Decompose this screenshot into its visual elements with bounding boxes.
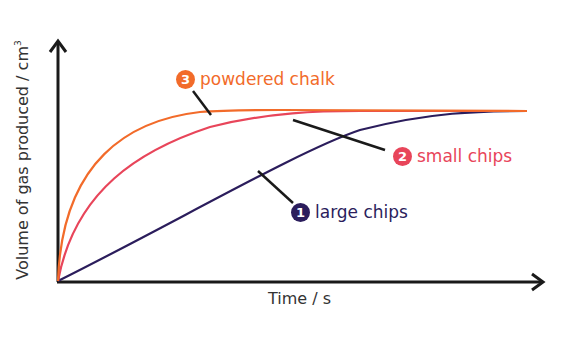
leader-line-1 bbox=[258, 171, 293, 203]
y-axis-label-superscript: 3 bbox=[13, 40, 23, 46]
legend-label-small-chips: small chips bbox=[417, 146, 512, 166]
number-badge-1: 1 bbox=[291, 203, 310, 222]
number-badge-2: 2 bbox=[393, 147, 412, 166]
x-axis-label: Time / s bbox=[268, 289, 331, 308]
legend-powdered-chalk: 3 powdered chalk bbox=[176, 69, 335, 89]
curve-small-chips bbox=[58, 111, 527, 281]
y-axis-label-text: Volume of gas produced / cm bbox=[13, 46, 32, 280]
legend-label-powdered-chalk: powdered chalk bbox=[200, 69, 335, 89]
curve-large-chips bbox=[58, 111, 527, 281]
y-axis-label: Volume of gas produced / cm3 bbox=[13, 40, 32, 279]
legend-large-chips: 1 large chips bbox=[291, 202, 408, 222]
legend-label-large-chips: large chips bbox=[315, 202, 408, 222]
legend-small-chips: 2 small chips bbox=[393, 146, 512, 166]
leader-line-2 bbox=[293, 120, 385, 150]
number-badge-3: 3 bbox=[176, 70, 195, 89]
curve-powdered-chalk bbox=[58, 110, 527, 281]
